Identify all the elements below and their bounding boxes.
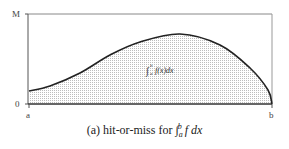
x-label-a: a [26,110,30,120]
caption-prefix: (a) hit-or-miss for [87,123,176,137]
caption-integral-body: f dx [182,123,203,137]
figure-caption: (a) hit-or-miss for ∫ab f dx [0,122,289,139]
x-label-b: b [269,110,274,120]
y-label-0: 0 [15,99,20,109]
integral-body: f(x)dx [155,66,174,75]
area-under-curve [29,34,272,104]
y-label-M: M [12,9,20,19]
